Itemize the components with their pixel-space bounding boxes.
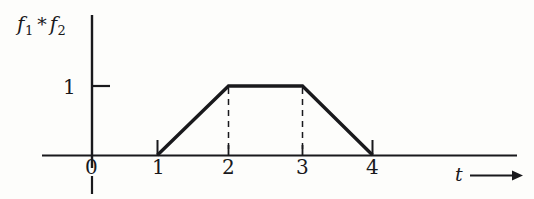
plot-canvas — [0, 0, 534, 199]
y-axis-label: f1*f2 — [17, 14, 66, 37]
y-axis-f2-symbol: f — [50, 12, 57, 36]
y-axis-f2-subscript: 2 — [58, 23, 66, 38]
x-tick-label-2: 2 — [222, 157, 235, 177]
x-tick-label-3: 3 — [296, 157, 309, 177]
x-axis-label: t — [455, 165, 463, 184]
origin-label: 0 — [85, 157, 98, 177]
y-axis-f1-subscript: 1 — [25, 23, 33, 38]
convolution-figure: f1*f2 1 0 1 2 3 4 t — [0, 0, 534, 199]
convolution-operator: * — [37, 13, 47, 35]
right-arrow-icon — [470, 171, 523, 181]
x-tick-label-1: 1 — [152, 157, 165, 177]
y-tick-label-1: 1 — [63, 77, 76, 97]
x-tick-label-4: 4 — [366, 157, 379, 177]
convolution-curve — [158, 86, 373, 155]
y-axis-f1-symbol: f — [17, 12, 24, 36]
